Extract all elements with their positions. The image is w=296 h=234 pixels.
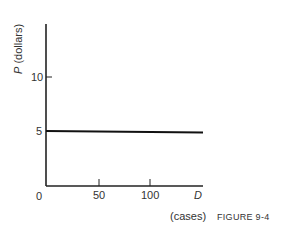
figure-label: FIGURE 9-4 [217, 213, 270, 222]
y-axis-label: P (dollars) [12, 24, 24, 74]
y-variable: P [12, 67, 24, 74]
y-tick-label-10: 10 [31, 72, 43, 83]
y-tick-label-5: 5 [36, 126, 42, 137]
x-units: (cases) [170, 211, 206, 222]
x-tick-label-100: 100 [141, 190, 159, 201]
demand-line [46, 131, 203, 133]
x-variable: D [194, 190, 202, 201]
y-units: (dollars) [12, 24, 24, 64]
origin-label: 0 [36, 191, 42, 202]
x-tick-label-50: 50 [93, 190, 105, 201]
